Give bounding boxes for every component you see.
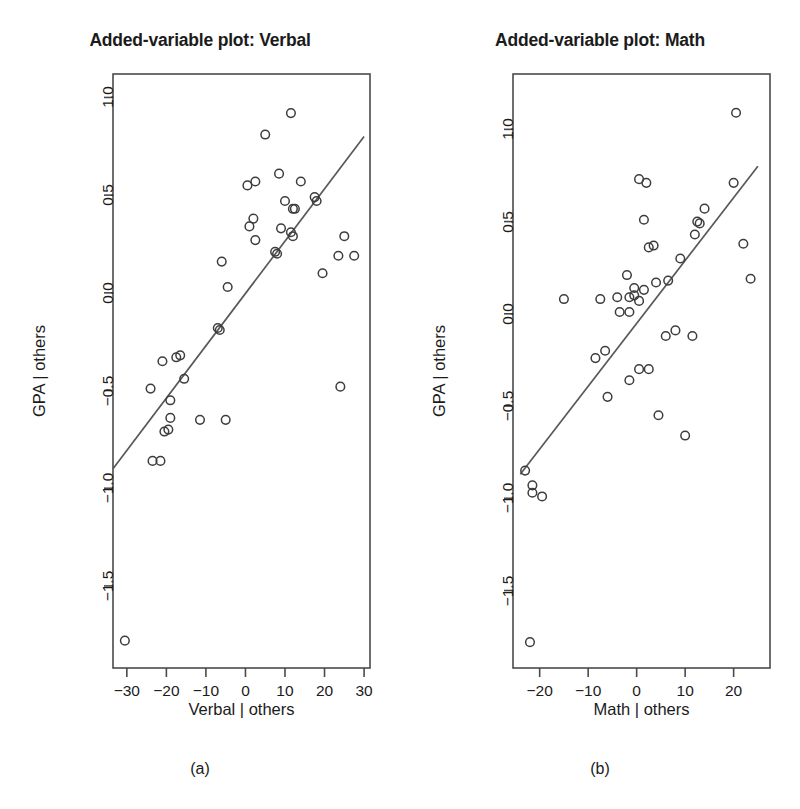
data-point (729, 179, 738, 188)
data-point (217, 257, 226, 266)
data-point (613, 293, 622, 302)
panel-b-plot-area (400, 0, 800, 760)
data-point (245, 222, 254, 231)
x-tick-label: 20 (725, 682, 742, 700)
x-tick-label: 0 (632, 682, 641, 700)
data-point (732, 108, 741, 117)
data-point (261, 130, 270, 139)
data-point (223, 283, 232, 292)
y-tick-label: 0.5 (499, 211, 517, 233)
data-point (615, 308, 624, 317)
panel-verbal: Added-variable plot: Verbal Verbal | oth… (0, 0, 400, 790)
x-tick-label: −10 (575, 682, 601, 700)
added-variable-plot-figure: Added-variable plot: Verbal Verbal | oth… (0, 0, 800, 809)
data-point (591, 354, 600, 363)
x-tick-label: −20 (527, 682, 553, 700)
data-point (691, 230, 700, 239)
data-point (251, 236, 260, 245)
data-point (560, 295, 569, 304)
y-tick-label: 0.0 (499, 303, 517, 325)
data-point (287, 109, 296, 118)
plot-frame (113, 74, 370, 668)
panel-b-y-axis-title: GPA | others (430, 325, 449, 417)
y-tick-label: −1.5 (499, 575, 517, 606)
data-point (676, 254, 685, 263)
data-point (275, 169, 284, 178)
x-tick-label: 30 (355, 682, 372, 700)
data-point (601, 346, 610, 355)
data-point (671, 326, 680, 335)
data-point (297, 177, 306, 186)
data-point (681, 431, 690, 440)
panel-a-y-axis-title: GPA | others (30, 325, 49, 417)
data-point (661, 332, 670, 341)
panel-a-x-axis-title: Verbal | others (0, 700, 400, 719)
regression-line (520, 166, 758, 474)
data-point (318, 269, 327, 278)
data-point (640, 286, 649, 295)
data-point (166, 414, 175, 423)
y-tick-label: 0.0 (99, 282, 117, 304)
data-point (623, 271, 632, 280)
y-tick-label: −1.5 (99, 571, 117, 602)
data-point (746, 274, 755, 283)
data-point (644, 365, 653, 374)
data-point (334, 251, 343, 260)
panel-b-x-axis-title: Math | others (400, 700, 800, 719)
data-point (146, 384, 155, 393)
y-tick-label: −0.5 (499, 391, 517, 422)
y-tick-label: −1.0 (499, 483, 517, 514)
data-point (121, 636, 130, 645)
data-point (243, 181, 252, 190)
data-point (196, 416, 205, 425)
data-point (625, 308, 634, 317)
x-tick-label: −10 (193, 682, 219, 700)
data-point (739, 239, 748, 248)
y-tick-label: −1.0 (99, 473, 117, 504)
x-tick-label: 0 (241, 682, 250, 700)
x-tick-label: −30 (114, 682, 140, 700)
data-point (221, 416, 230, 425)
x-tick-label: 20 (316, 682, 333, 700)
data-point (635, 365, 644, 374)
panel-a-caption: (a) (0, 760, 400, 778)
y-tick-label: 0.5 (99, 184, 117, 206)
data-point (281, 197, 290, 206)
y-tick-label: −0.5 (99, 375, 117, 406)
panel-a-plot-area (0, 0, 400, 760)
data-point (158, 357, 167, 366)
panel-math: Added-variable plot: Math Math | others … (400, 0, 800, 790)
panel-b-caption: (b) (400, 760, 800, 778)
data-point (688, 332, 697, 341)
x-tick-label: 10 (276, 682, 293, 700)
x-tick-label: 10 (677, 682, 694, 700)
data-point (350, 251, 359, 260)
data-point (652, 278, 661, 287)
x-tick-label: −20 (153, 682, 179, 700)
data-point (635, 297, 644, 306)
data-point (603, 393, 612, 402)
data-point (538, 492, 547, 501)
data-point (526, 638, 535, 647)
data-point (340, 232, 349, 241)
plot-frame (513, 74, 770, 668)
data-point (642, 179, 651, 188)
data-point (166, 396, 175, 405)
data-point (336, 382, 345, 391)
data-point (625, 376, 634, 385)
data-point (596, 295, 605, 304)
data-point (654, 411, 663, 420)
y-tick-label: 1.0 (99, 87, 117, 109)
data-point (277, 224, 286, 233)
y-tick-label: 1.0 (499, 119, 517, 141)
regression-line (113, 137, 364, 469)
data-point (695, 219, 704, 228)
data-point (640, 215, 649, 224)
data-point (700, 204, 709, 213)
